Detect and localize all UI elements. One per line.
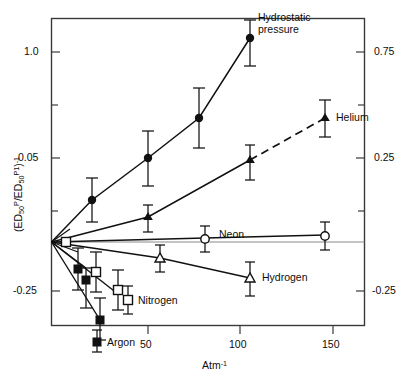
- annotation-neon: Neon: [219, 228, 244, 240]
- x-tick-1: 50: [140, 338, 152, 350]
- annotation-hydrostatic-line1: Hydrostatic: [258, 11, 311, 23]
- y-axis-title-text: (ED50P/ED50P1)-1: [12, 157, 24, 232]
- y-axis-title: (ED50P/ED50P1)-1: [12, 157, 26, 232]
- y-right-tick-2: 0.25: [374, 151, 394, 163]
- y-left-ticks: [52, 52, 61, 291]
- x-axis-title-exp: -1: [221, 359, 227, 368]
- series-line-hydrostatic-pressure: [52, 38, 251, 242]
- y-right-tick-1: 0.75: [374, 45, 394, 57]
- series-line-helium-dashed: [250, 118, 325, 160]
- x-axis-title: Atm-1: [202, 359, 227, 371]
- legend-marker-argon: [93, 338, 102, 347]
- y-right-tick-3: -0.25: [372, 284, 396, 296]
- chart-figure: 1.0 0.05 -0.25 0.75 0.25 -0.25 50 100 15…: [0, 0, 416, 388]
- y-left-tick-3: -0.25: [13, 284, 37, 296]
- y-right-ticks: [356, 52, 365, 291]
- x-tick-2: 100: [229, 338, 247, 350]
- annotation-hydrogen: Hydrogen: [262, 271, 308, 283]
- annotation-argon: Argon: [107, 336, 135, 348]
- series-line-argon: [52, 242, 101, 320]
- markers-hydrostatic-pressure: [88, 34, 254, 204]
- y-left-tick-1: 1.0: [24, 45, 39, 57]
- x-ticks: [148, 326, 333, 335]
- series-line-neon: [52, 235, 326, 242]
- x-tick-3: 150: [322, 338, 340, 350]
- annotation-nitrogen: Nitrogen: [138, 294, 178, 306]
- legend-marker-nitrogen: [124, 296, 133, 305]
- chart-canvas: [0, 0, 416, 388]
- annotation-helium: Helium: [336, 111, 369, 123]
- x-axis-title-text: Atm: [202, 359, 221, 371]
- annotation-hydrostatic-line2: pressure: [258, 23, 299, 35]
- annotation-hydrostatic-pressure: Hydrostatic pressure: [258, 11, 311, 35]
